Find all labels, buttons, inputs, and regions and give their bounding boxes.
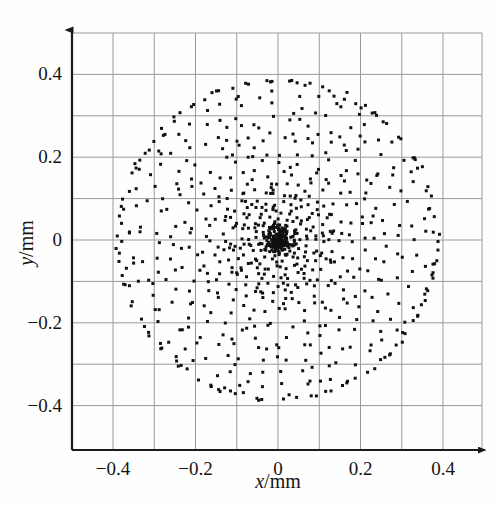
scatter-point [433,262,436,265]
scatter-point [188,146,191,149]
scatter-point [285,225,288,228]
scatter-point [319,268,322,271]
scatter-point [348,233,351,236]
scatter-point [423,217,426,220]
scatter-point [354,159,357,162]
scatter-point [266,175,269,178]
scatter-point [294,194,297,197]
scatter-point [233,363,236,366]
scatter-point [328,346,331,349]
scatter-point [204,143,207,146]
scatter-point [416,167,419,170]
scatter-point [206,320,209,323]
scatter-point [242,212,245,215]
scatter-point [175,359,178,362]
scatter-point [175,182,178,185]
scatter-point [284,136,287,139]
scatter-point [292,112,295,115]
scatter-point [307,137,310,140]
scatter-point [116,234,119,237]
scatter-point [242,304,245,307]
scatter-point [300,219,303,222]
scatter-point [292,133,295,136]
scatter-point [154,185,157,188]
scatter-point [225,139,228,142]
scatter-point [253,188,256,191]
scatter-point [258,96,261,99]
scatter-point [250,203,253,206]
scatter-point [256,200,259,203]
scatter-point [246,206,249,209]
scatter-point [224,215,227,218]
scatter-point [231,87,234,90]
scatter-point [169,152,172,155]
scatter-point [321,232,324,235]
scatter-point [320,252,323,255]
scatter-point [255,230,258,233]
scatter-point [240,237,243,240]
scatter-point [243,223,246,226]
scatter-point [346,270,349,273]
scatter-point [227,354,230,357]
scatter-point [337,328,340,331]
scatter-point [263,237,266,240]
scatter-point [342,298,345,301]
scatter-point [216,374,219,377]
scatter-point [285,242,288,245]
scatter-point [234,245,237,248]
scatter-point [241,227,244,230]
scatter-point [210,204,213,207]
scatter-point [197,379,200,382]
scatter-point [325,178,328,181]
scatter-point [180,364,183,367]
scatter-point [227,258,230,261]
scatter-point [328,89,331,92]
scatter-point [249,244,252,247]
scatter-point [239,247,242,250]
scatter-point [290,243,293,246]
scatter-point [261,371,264,374]
scatter-point [361,215,364,218]
scatter-point [297,247,300,250]
scatter-point [122,208,125,211]
scatter-point [138,159,141,162]
scatter-point [338,239,341,242]
scatter-point [240,199,243,202]
scatter-point [308,279,311,282]
scatter-point [232,249,235,252]
scatter-point [373,367,376,370]
scatter-point [276,355,279,358]
scatter-point [247,262,250,265]
scatter-point [254,206,257,209]
scatter-point [235,222,238,225]
scatter-point [227,283,230,286]
scatter-point [292,255,295,258]
scatter-point [253,226,256,229]
scatter-point [291,297,294,300]
scatter-point [217,246,220,249]
scatter-point [261,292,264,295]
scatter-point [285,336,288,339]
scatter-point [374,207,377,210]
y-axis-title-variable: y [15,257,37,266]
scatter-point [289,203,292,206]
scatter-point [327,158,330,161]
scatter-point [279,370,282,373]
scatter-point [141,260,144,263]
scatter-point [229,216,232,219]
scatter-point [293,252,296,255]
scatter-point [247,83,250,86]
scatter-point [167,341,170,344]
scatter-point [296,81,299,84]
scatter-point [295,242,298,245]
scatter-point [138,168,141,171]
scatter-point [280,382,283,385]
scatter-point [121,198,124,201]
scatter-point [326,216,329,219]
scatter-point [223,386,226,389]
scatter-point [366,371,369,374]
scatter-point [236,140,239,143]
scatter-point [389,352,392,355]
scatter-point [396,252,399,255]
scatter-point [383,356,386,359]
